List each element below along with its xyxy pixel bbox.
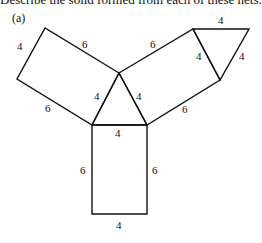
- edge-label: 4: [218, 14, 224, 26]
- edge-label: 4: [136, 90, 142, 102]
- edge-label: 6: [152, 164, 158, 176]
- edge-label: 4: [196, 50, 202, 62]
- edge-label: 4: [239, 50, 245, 62]
- edge-label: 6: [80, 164, 86, 176]
- edge-label: 4: [17, 40, 23, 52]
- right-rectangle: [119, 29, 220, 125]
- edge-label: 4: [115, 127, 121, 139]
- edge-label: 4: [116, 219, 122, 231]
- edge-label: 6: [150, 38, 156, 50]
- part-label: (a): [12, 11, 25, 25]
- edge-label: 6: [45, 102, 51, 114]
- prism-net-diagram: (a) 4 6 6 4 4 4 6 6 4 4 4 6 6 4: [0, 0, 262, 243]
- edge-label: 4: [94, 90, 100, 102]
- edge-label: 6: [182, 103, 188, 115]
- edge-label: 6: [82, 38, 88, 50]
- left-rectangle: [17, 28, 119, 125]
